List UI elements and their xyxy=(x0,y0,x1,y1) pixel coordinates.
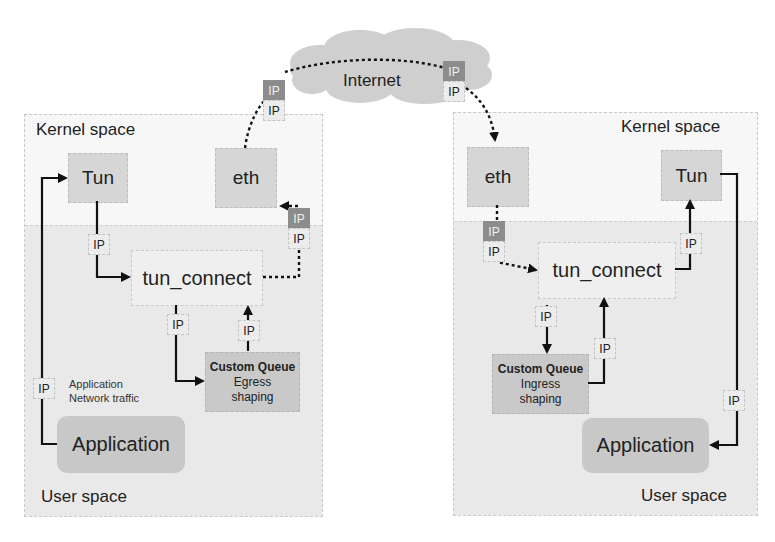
ip-tunnel-outer-header: IP xyxy=(483,221,505,242)
ip-inner-packet: IP xyxy=(483,241,505,262)
left-tun-connect[interactable]: tun_connect xyxy=(131,250,263,306)
left-tun-interface[interactable]: Tun xyxy=(68,153,128,203)
left-user-space-label: User space xyxy=(41,487,127,507)
left-app-traffic-note: Application Network traffic xyxy=(69,377,139,405)
ip-packet-label: IP xyxy=(167,314,189,335)
right-tun-interface[interactable]: Tun xyxy=(661,150,722,201)
ip-tunnel-outer-header: IP xyxy=(288,208,310,229)
left-kernel-space-label: Kernel space xyxy=(36,120,135,140)
left-custom-queue-egress[interactable]: Custom Queue Egress shaping xyxy=(205,352,300,412)
right-kernel-space-label: Kernel space xyxy=(621,117,720,137)
right-eth-interface[interactable]: eth xyxy=(467,147,529,207)
ip-tunnel-outer-header: IP xyxy=(263,80,285,101)
left-application[interactable]: Application xyxy=(57,416,185,473)
ip-packet-label: IP xyxy=(594,338,616,359)
note-line2: Network traffic xyxy=(69,391,139,405)
right-tun-connect[interactable]: tun_connect xyxy=(538,242,676,299)
ip-inner-packet: IP xyxy=(263,100,285,121)
note-line1: Application xyxy=(69,377,139,391)
queue-line1: Egress xyxy=(234,375,271,390)
ip-packet-label: IP xyxy=(680,233,702,254)
ip-packet-label: IP xyxy=(88,234,110,255)
ip-packet-label: IP xyxy=(238,320,260,341)
ip-inner-packet: IP xyxy=(288,228,310,249)
ip-packet-label: IP xyxy=(723,390,745,411)
right-user-space-label: User space xyxy=(641,486,727,506)
right-custom-queue-ingress[interactable]: Custom Queue Ingress shaping xyxy=(492,354,589,414)
internet-label: Internet xyxy=(343,71,401,91)
right-application[interactable]: Application xyxy=(582,418,709,473)
ip-tunnel-outer-header: IP xyxy=(443,61,465,82)
queue-title: Custom Queue xyxy=(210,360,295,375)
ip-packet-label: IP xyxy=(535,306,557,327)
left-eth-interface[interactable]: eth xyxy=(215,148,277,208)
queue-line1: Ingress xyxy=(521,377,560,392)
ip-inner-packet: IP xyxy=(443,81,465,102)
queue-line2: shaping xyxy=(231,390,273,405)
queue-title: Custom Queue xyxy=(498,362,583,377)
queue-line2: shaping xyxy=(519,392,561,407)
ip-packet-label: IP xyxy=(33,378,55,399)
